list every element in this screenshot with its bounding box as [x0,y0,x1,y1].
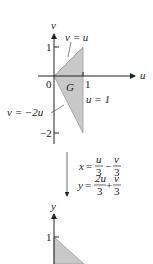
region-label-g: G [66,81,74,93]
eq1-t1-num: u [96,153,102,165]
tick-label-v1: 1 [46,41,52,53]
tick-label-y1: 1 [46,231,52,243]
tick-label-vneg2: −2 [40,127,52,139]
label-u-eq-1: u = 1 [86,93,110,105]
eq2-t1-den: 3 [97,185,103,197]
eq2-t2-num: v [114,172,119,184]
region-r [54,237,84,264]
label-v-eq-neg2u: v = −2u [7,106,44,118]
tick-label-u1: 1 [85,78,91,90]
eq1-op: − [105,160,111,172]
eq2-lhs: y [77,179,83,191]
leader-v-eq-neg2u [51,105,64,113]
v-axis-label: v [51,19,56,31]
eq2-equals: = [85,179,91,191]
bottom-plot [54,214,84,264]
origin-label: 0 [46,78,52,90]
u-axis-label: u [140,69,146,81]
diagram-canvas: v u 1 −2 0 1 G v = u v = −2u u = 1 x = u… [0,0,153,264]
eq1-lhs: x [78,160,84,172]
y-axis-label: y [50,200,56,212]
eq1-t2-num: v [114,153,119,165]
eq2-t2-den: 3 [114,185,120,197]
eq2-t1-num: 2u [95,172,107,184]
leader-v-eq-u [68,42,71,57]
label-v-eq-u: v = u [65,31,89,43]
eq1-equals: = [86,160,92,172]
eq2-op: + [106,179,112,191]
